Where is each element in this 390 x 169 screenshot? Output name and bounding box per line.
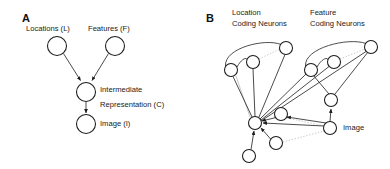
- node-feature-neuron-2: [328, 56, 341, 69]
- node-image: [77, 115, 96, 134]
- edge-f2-f3-dotted: [340, 49, 365, 59]
- node-location-neuron-1: [225, 64, 238, 77]
- node-location-neuron-2: [247, 56, 260, 69]
- figure-graphics: [0, 0, 390, 169]
- figure-canvas: A Locations (L) Features (F) Intermediat…: [0, 0, 390, 169]
- node-locations: [48, 37, 67, 56]
- node-intermediate-2: [275, 108, 288, 121]
- edge-l1-hub-faint: [236, 76, 250, 117]
- edge-l1-to-hub: [233, 77, 252, 118]
- node-feature-conjunction: [325, 94, 338, 107]
- node-features: [106, 37, 125, 56]
- node-intermediate-3: [270, 137, 283, 150]
- node-intermediate-4: [243, 150, 256, 163]
- edge-c3-img-dotted: [283, 131, 324, 142]
- node-intermediate-representation: [77, 83, 96, 102]
- edge-l1-l2-curve: [237, 58, 247, 67]
- edge-locations-to-intermediate: [64, 54, 81, 81]
- node-image-input: [324, 122, 337, 135]
- panel-a-nodes: [48, 37, 125, 134]
- node-intermediate-hub: [249, 117, 262, 130]
- node-feature-neuron-3: [365, 41, 378, 54]
- edge-l2-to-hub: [253, 69, 255, 117]
- node-feature-neuron-1: [305, 64, 318, 77]
- edge-c3-to-hub: [261, 128, 271, 140]
- edge-features-to-intermediate: [92, 54, 109, 81]
- edge-image-to-hub: [263, 123, 324, 126]
- edge-f2-to-hub: [261, 67, 329, 121]
- edge-image-to-c2: [287, 117, 326, 123]
- edge-l2-l3-dotted: [259, 49, 280, 59]
- edge-image-to-fc: [330, 109, 331, 122]
- edge-f1-f2-curve: [317, 58, 328, 67]
- edge-c4-to-hub: [251, 131, 254, 150]
- node-location-neuron-3: [280, 42, 293, 55]
